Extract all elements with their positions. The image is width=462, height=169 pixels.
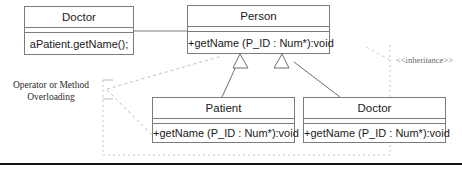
bottom-divider (0, 163, 462, 165)
inheritance-arrowhead-doctor (274, 54, 289, 68)
generalization-doctor-person (294, 62, 340, 97)
uml-class-doctor-subclass[interactable]: Doctor +getName (P_ID : Num*):void (303, 97, 446, 143)
uml-member-text: +getName (P_ID : Num*):void (304, 127, 445, 139)
uml-member-text: +getName (P_ID : Num*):void (188, 37, 329, 49)
leader-line-to-patient (107, 90, 152, 135)
uml-member-text: +getName (P_ID : Num*):void (153, 127, 294, 139)
inheritance-arrowhead-patient (233, 54, 248, 68)
uml-operation-compartment: +getName (P_ID : Num*):void (153, 124, 294, 142)
uml-class-name: Person (188, 6, 329, 27)
uml-class-doctor-caller[interactable]: Doctor aPatient.getName(); (24, 6, 134, 55)
uml-member-text: aPatient.getName(); (25, 38, 133, 50)
uml-class-name: Doctor (304, 98, 445, 119)
inheritance-stereotype-leader (366, 47, 390, 60)
uml-operation-compartment: +getName (P_ID : Num*):void (304, 124, 445, 142)
uml-operation-compartment: +getName (P_ID : Num*):void (188, 32, 329, 53)
leader-line-to-person (107, 56, 222, 89)
inheritance-stereotype-label: <<inheritance>> (396, 55, 453, 65)
uml-operation-compartment: aPatient.getName(); (25, 33, 133, 54)
overloading-annotation-line-2: Overloading (2, 92, 100, 104)
uml-class-name: Doctor (25, 7, 133, 28)
uml-class-diagram: Doctor aPatient.getName(); Person +getNa… (0, 0, 462, 169)
uml-class-name: Patient (153, 98, 294, 119)
uml-class-person[interactable]: Person +getName (P_ID : Num*):void (187, 5, 330, 54)
overloading-annotation-line-1: Operator or Method (2, 80, 100, 92)
overloading-annotation: Operator or Method Overloading (2, 80, 100, 104)
uml-class-patient[interactable]: Patient +getName (P_ID : Num*):void (152, 97, 295, 143)
